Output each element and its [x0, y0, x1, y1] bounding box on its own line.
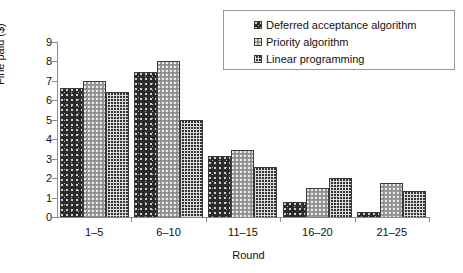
bar: [157, 61, 180, 217]
y-tick-label: 7: [46, 75, 52, 86]
x-axis-title-text: Round: [232, 249, 264, 261]
bar: [380, 183, 403, 217]
x-axis-category-label: 1–5: [57, 226, 131, 238]
bar: [208, 156, 231, 217]
bar: [403, 191, 426, 217]
y-tick-label: 5: [46, 114, 52, 125]
legend-item: Linear programming: [254, 51, 454, 67]
x-axis-separator: [355, 217, 356, 222]
y-tick-label: 6: [46, 95, 52, 106]
bar-chart: Fine paid ($) 0123456789 1–56–1011–1516–…: [0, 0, 463, 273]
bar: [254, 167, 277, 217]
x-axis-title: Round: [0, 249, 463, 261]
bar: [106, 92, 129, 217]
y-axis-title: Fine paid ($): [0, 23, 6, 85]
y-tick-label: 4: [46, 134, 52, 145]
bar: [180, 120, 203, 217]
x-axis-separator: [206, 217, 207, 222]
x-axis-separator: [429, 217, 430, 222]
y-tick-label: 8: [46, 56, 52, 67]
legend-label: Priority algorithm: [266, 37, 349, 48]
x-axis-category-label: 21–25: [355, 226, 429, 238]
bar: [134, 72, 157, 217]
bar-group: [57, 42, 131, 217]
bar: [283, 202, 306, 217]
y-tick-label: 2: [46, 173, 52, 184]
legend-swatch-priority-icon: [254, 38, 262, 46]
legend-label: Deferred acceptance algorithm: [266, 20, 416, 31]
y-tick-label: 9: [46, 37, 52, 48]
legend-swatch-deferred-acceptance-icon: [254, 21, 262, 29]
x-axis-separator: [131, 217, 132, 222]
legend-label: Linear programming: [266, 54, 364, 65]
y-tick-label: 0: [46, 212, 52, 223]
chart-legend: Deferred acceptance algorithm Priority a…: [223, 10, 455, 70]
x-axis-separator: [280, 217, 281, 222]
y-tick-mark: [52, 217, 57, 218]
bar: [60, 88, 83, 217]
bar: [83, 81, 106, 217]
bar: [329, 178, 352, 217]
x-axis-line: [57, 217, 430, 218]
x-axis-category-label: 11–15: [206, 226, 280, 238]
x-axis-category-label: 16–20: [280, 226, 354, 238]
x-axis-category-label: 6–10: [131, 226, 205, 238]
legend-item: Deferred acceptance algorithm: [254, 17, 454, 33]
bar: [231, 150, 254, 217]
legend-item: Priority algorithm: [254, 34, 454, 50]
bar: [357, 212, 380, 217]
bar-group: [131, 42, 205, 217]
y-tick-label: 3: [46, 153, 52, 164]
bar: [306, 188, 329, 217]
y-tick-label: 1: [46, 192, 52, 203]
legend-swatch-linear-programming-icon: [254, 55, 262, 63]
